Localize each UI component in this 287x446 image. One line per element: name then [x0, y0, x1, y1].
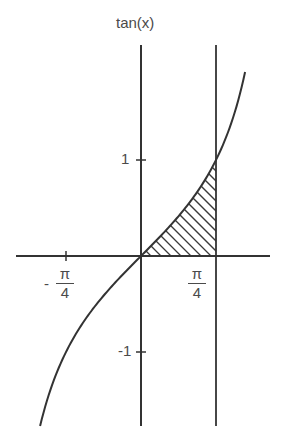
y-axis-title: tan(x): [116, 14, 154, 31]
tick-label-y-1: 1: [121, 150, 129, 167]
tan-plot: [0, 0, 287, 446]
tick-label-x-pi-over-4: π 4: [188, 266, 206, 301]
tick-label-x-neg-pi-over-4: π 4: [56, 266, 74, 301]
tick-label-x-neg-sign: -: [44, 275, 49, 292]
numerator: π: [192, 266, 202, 282]
numerator: π: [60, 266, 70, 282]
hatched-area: [21, 136, 287, 256]
denominator: 4: [61, 285, 69, 301]
denominator: 4: [193, 285, 201, 301]
tick-label-y-neg-1: -1: [118, 342, 131, 359]
